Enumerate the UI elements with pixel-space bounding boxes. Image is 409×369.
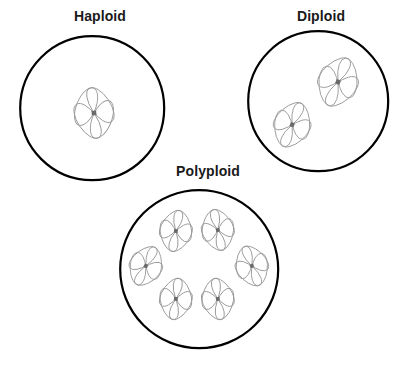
- chromosome-icon: [271, 99, 313, 151]
- cell-label-diploid: Diploid: [281, 8, 361, 24]
- chromosome-icon: [199, 276, 237, 322]
- chromosome-icon: [157, 276, 195, 322]
- cell-label-haploid: Haploid: [57, 8, 143, 24]
- cell-label-polyploid: Polyploid: [158, 163, 258, 179]
- chromosome-icon: [315, 54, 361, 110]
- chromosome-icon: [71, 85, 117, 141]
- ploidy-diagram: HaploidDiploidPolyploid: [0, 0, 409, 369]
- chromosome-icon: [233, 243, 271, 289]
- chromosome-icon: [199, 207, 237, 253]
